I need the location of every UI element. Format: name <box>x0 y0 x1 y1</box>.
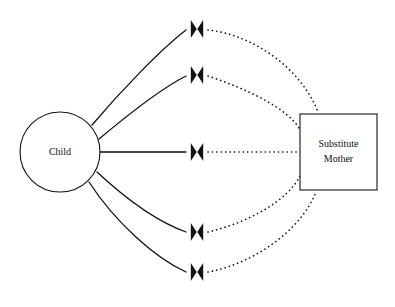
dotted-link-2 <box>208 76 300 130</box>
solid-link-2 <box>99 76 186 139</box>
substitute-mother-label-line2: Mother <box>324 153 354 164</box>
solid-link-5 <box>89 182 186 272</box>
arrowhead-right-icon <box>191 263 197 281</box>
solid-links-group <box>89 30 186 272</box>
solid-link-1 <box>92 30 186 125</box>
arrowhead-right-icon <box>191 223 197 241</box>
dotted-link-5 <box>208 192 316 272</box>
double-arrowhead-icon <box>191 223 203 241</box>
arrowhead-right-icon <box>191 20 197 38</box>
arrowhead-left-icon <box>197 263 203 281</box>
arrowhead-left-icon <box>197 20 203 38</box>
substitute-mother-label-line1: Substitute <box>318 138 359 149</box>
double-arrowhead-icon <box>191 263 203 281</box>
double-arrowhead-icon <box>191 20 203 38</box>
arrowhead-left-icon <box>197 143 203 161</box>
child-label: Child <box>49 146 71 157</box>
dotted-link-1 <box>208 30 318 112</box>
solid-link-4 <box>97 172 186 232</box>
arrow-markers-group <box>191 20 203 281</box>
double-arrowhead-icon <box>191 143 203 161</box>
node-substitute-mother[interactable]: Substitute Mother <box>300 114 377 190</box>
diagram-canvas: Child Substitute Mother <box>0 0 395 307</box>
substitute-mother-box[interactable] <box>300 114 377 190</box>
arrowhead-right-icon <box>191 143 197 161</box>
node-child[interactable]: Child <box>20 112 100 192</box>
dotted-link-4 <box>208 176 300 232</box>
arrowhead-left-icon <box>197 66 203 84</box>
diagram-svg: Child Substitute Mother <box>0 0 395 307</box>
arrowhead-right-icon <box>191 66 197 84</box>
double-arrowhead-icon <box>191 66 203 84</box>
arrowhead-left-icon <box>197 223 203 241</box>
